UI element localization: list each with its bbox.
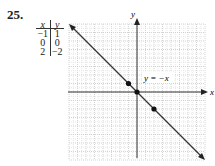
coordinate-graph: x y y = −x — [0, 0, 215, 166]
data-point — [134, 89, 139, 94]
data-point — [126, 81, 131, 86]
equation-label: y = −x — [143, 73, 169, 83]
data-point — [151, 106, 156, 111]
x-axis-label: x — [209, 87, 214, 97]
y-axis-arrow-icon — [134, 18, 140, 25]
x-axis-arrow-icon — [201, 89, 208, 95]
y-axis-label: y — [130, 9, 135, 19]
